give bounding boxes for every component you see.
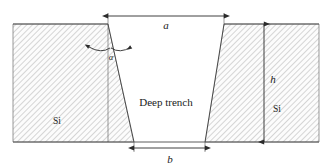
material-label-left: Si — [53, 116, 61, 126]
dimension-label-h: h — [270, 73, 276, 85]
material-label-right: Si — [273, 104, 281, 114]
trench-cross-section-figure: a b h α Deep trench Si Si — [0, 0, 334, 168]
dimension-label-a: a — [163, 19, 169, 31]
trench-region-label: Deep trench — [139, 96, 193, 108]
silicon-region-right — [205, 24, 319, 142]
trench-diagram-canvas: a b h α Deep trench Si Si — [0, 0, 334, 168]
angle-label-alpha: α — [109, 52, 114, 62]
dimension-label-b: b — [167, 153, 173, 165]
